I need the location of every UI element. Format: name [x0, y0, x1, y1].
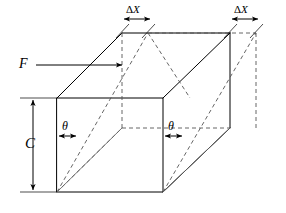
delta-x-right-label: ΔX: [234, 4, 248, 15]
sheared-right-edge-upper: [163, 33, 256, 192]
delta-x-right-extension-b: [250, 24, 263, 38]
delta-x-left-label: ΔX: [126, 4, 140, 15]
shear-diagram-canvas: [0, 0, 286, 213]
block-hidden-edges: [57, 33, 230, 192]
top-face-right-edge: [163, 33, 230, 98]
delta-x-left-extension-b: [142, 24, 155, 38]
sheared-top-face-left-edge: [57, 33, 148, 192]
sheared-front-right-diagonal: [163, 128, 230, 192]
sheared-outline-solid: [57, 128, 230, 192]
force-label: F: [19, 57, 28, 71]
block-solid-edges: [57, 33, 230, 192]
front-face-outline: [57, 98, 163, 192]
delta-x-right-variable: X: [241, 3, 248, 15]
sheared-top-front-edge: [148, 33, 190, 98]
shear-deformation-figure: F C θ θ ΔX ΔX: [0, 0, 286, 213]
sheared-outline: [57, 33, 256, 192]
theta-left-label: θ: [62, 120, 68, 132]
delta-x-left-extension-a: [116, 24, 129, 38]
sheared-front-left-diagonal: [57, 128, 122, 192]
theta-right-label: θ: [168, 120, 174, 132]
delta-x-left-variable: X: [133, 3, 140, 15]
height-label: C: [25, 136, 35, 151]
